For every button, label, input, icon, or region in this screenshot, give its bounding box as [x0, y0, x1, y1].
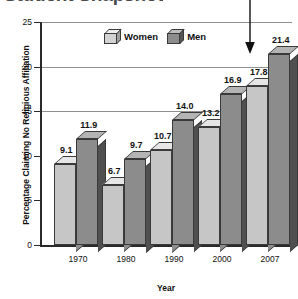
bar-women-1990[interactable]: 10.7 [150, 150, 172, 246]
bar-value-women-1980: 6.7 [108, 166, 121, 176]
swatch-front-face [104, 33, 117, 44]
swatch-side-face [180, 29, 184, 44]
x-axis-title: Year [40, 283, 292, 293]
x-tick-label-1980: 1980 [102, 254, 150, 264]
y-tick-label-20: 20 [23, 62, 32, 72]
swatch-side-face [117, 29, 121, 44]
tickmark-15 [34, 111, 41, 112]
bar-front-face [198, 127, 220, 245]
bar-women-2007[interactable]: 17.8 [246, 86, 268, 245]
bar-value-men-2007: 21.4 [272, 35, 290, 45]
bar-men-1980[interactable]: 9.7 [124, 159, 146, 246]
bar-value-men-1980: 9.7 [130, 140, 143, 150]
x-tick-label-2007: 2007 [246, 254, 294, 264]
legend-item-men[interactable]: Men [167, 29, 206, 44]
bar-value-women-1970: 9.1 [60, 145, 73, 155]
bar-top-face [268, 46, 298, 54]
bar-men-1970[interactable]: 11.9 [76, 139, 98, 245]
bar-front-face [54, 164, 76, 245]
chart-figure: Student Snapshot Percentage Claiming No … [0, 0, 298, 299]
bar-front-face [246, 86, 268, 245]
callout-arrow-icon [242, 0, 258, 56]
y-tick-label-15: 15 [23, 106, 32, 116]
bar-men-2007[interactable]: 21.4 [268, 54, 290, 245]
chart-title: Student Snapshot [4, 0, 163, 6]
bar-value-men-1990: 14.0 [176, 101, 194, 111]
x-tick-label-1990: 1990 [150, 254, 198, 264]
bar-value-women-2007: 17.8 [250, 67, 268, 77]
bar-value-men-1970: 11.9 [80, 120, 97, 130]
y-axis-line [40, 22, 42, 247]
tickmark-20 [34, 67, 41, 68]
bar-women-1970[interactable]: 9.1 [54, 164, 76, 245]
bar-women-2000[interactable]: 13.2 [198, 127, 220, 245]
tickmark-10 [34, 156, 41, 157]
bar-men-2000[interactable]: 16.9 [220, 94, 242, 245]
bar-front-face [102, 185, 124, 245]
bar-front-face [150, 150, 172, 246]
bar-group-1970: 9.1 11.9 [54, 22, 106, 245]
y-tick-label-0: 0 [27, 240, 32, 250]
legend-label-women: Women [124, 31, 158, 42]
bar-value-women-1990: 10.7 [154, 131, 172, 141]
bar-front-face [76, 139, 98, 245]
x-tick-label-2000: 2000 [198, 254, 246, 264]
bar-group-1990: 10.7 14.0 [150, 22, 202, 245]
bar-front-face [268, 54, 290, 245]
chart-legend: Women Men [104, 29, 206, 44]
legend-swatch-women-icon [104, 29, 119, 44]
legend-item-women[interactable]: Women [104, 29, 158, 44]
bar-value-women-2000: 13.2 [202, 108, 220, 118]
bar-women-1980[interactable]: 6.7 [102, 185, 124, 245]
bar-value-men-2000: 16.9 [224, 75, 242, 85]
tickmark-5 [34, 200, 41, 201]
x-tick-label-1970: 1970 [54, 254, 102, 264]
bar-men-1990[interactable]: 14.0 [172, 120, 194, 245]
tickmark-0 [34, 245, 41, 246]
y-tick-label-10: 10 [23, 151, 32, 161]
bar-front-face [220, 94, 242, 245]
bar-front-face [172, 120, 194, 245]
bar-group-1980: 6.7 9.7 [102, 22, 154, 245]
legend-swatch-men-icon [167, 29, 182, 44]
tickmark-25 [34, 22, 41, 23]
y-tick-label-25: 25 [23, 17, 32, 27]
bar-front-face [124, 159, 146, 246]
bar-side-face [290, 54, 298, 252]
swatch-front-face [167, 33, 180, 44]
y-tick-label-5: 5 [27, 195, 32, 205]
legend-label-men: Men [187, 31, 206, 42]
